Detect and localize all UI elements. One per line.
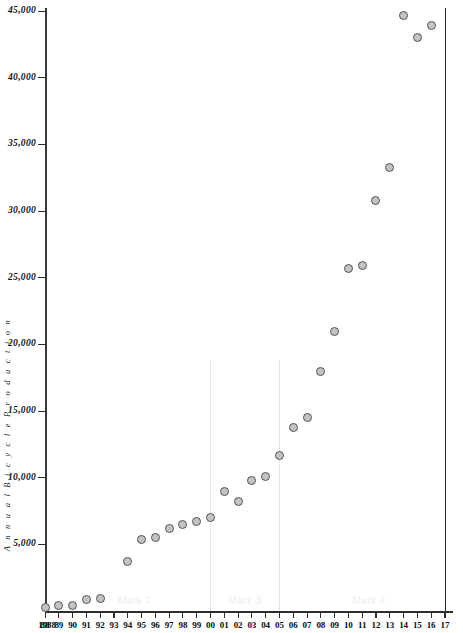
y-axis-tick bbox=[38, 344, 45, 345]
data-point bbox=[96, 594, 105, 603]
x-axis-tick bbox=[100, 612, 101, 618]
x-axis-tick-label: 16 bbox=[427, 620, 436, 630]
x-axis-tick-label: 13 bbox=[385, 620, 394, 630]
data-point bbox=[247, 476, 256, 485]
x-axis-tick-label: 97 bbox=[165, 620, 174, 630]
data-point bbox=[234, 497, 243, 506]
y-axis-tick bbox=[38, 77, 45, 78]
x-axis-tick bbox=[293, 612, 294, 618]
x-axis-tick-label: 88 bbox=[41, 620, 50, 630]
x-axis-tick bbox=[58, 612, 59, 618]
x-axis-tick-label: 90 bbox=[68, 620, 77, 630]
x-axis-tick-label: 00 bbox=[206, 620, 215, 630]
x-axis-tick bbox=[196, 612, 197, 618]
data-point bbox=[220, 487, 229, 496]
data-point bbox=[165, 524, 174, 533]
data-point bbox=[399, 11, 408, 20]
y-axis-tick bbox=[38, 211, 45, 212]
x-axis-tick-label: 91 bbox=[82, 620, 91, 630]
data-point bbox=[371, 196, 380, 205]
x-axis-tick bbox=[182, 612, 183, 618]
x-axis-tick bbox=[238, 612, 239, 618]
x-axis-tick bbox=[155, 612, 156, 618]
x-axis-tick bbox=[320, 612, 321, 618]
x-axis-tick bbox=[279, 612, 280, 618]
x-axis-tick bbox=[307, 612, 308, 618]
data-point bbox=[206, 513, 215, 522]
data-point bbox=[303, 413, 312, 422]
y-axis-tick bbox=[38, 411, 45, 412]
right-axis-line bbox=[445, 8, 446, 612]
x-axis-tick-label: 10 bbox=[344, 620, 353, 630]
data-point bbox=[316, 367, 325, 376]
x-axis-tick-label: 01 bbox=[220, 620, 229, 630]
y-axis-tick bbox=[38, 144, 45, 145]
x-axis-tick bbox=[224, 612, 225, 618]
data-point bbox=[344, 264, 353, 273]
data-point bbox=[151, 533, 160, 542]
bicycle-production-chart: Mark 2Mark 3Mark 4 45,00040,00035,00030,… bbox=[0, 0, 463, 633]
era-label: Mark 4 bbox=[353, 595, 386, 606]
x-axis-tick bbox=[348, 612, 349, 618]
x-axis-tick bbox=[375, 612, 376, 618]
y-axis-tick-label: 35,000 bbox=[0, 138, 36, 148]
x-axis-tick bbox=[210, 612, 211, 618]
x-axis-tick-label: 15 bbox=[413, 620, 422, 630]
x-axis-tick bbox=[403, 612, 404, 618]
x-axis-tick-label: 89 bbox=[54, 620, 63, 630]
x-axis-tick bbox=[169, 612, 170, 618]
x-axis-tick bbox=[362, 612, 363, 618]
y-axis-tick-label: 30,000 bbox=[0, 205, 36, 215]
data-point bbox=[261, 472, 270, 481]
x-axis-tick bbox=[127, 612, 128, 618]
x-axis-tick-label: 02 bbox=[234, 620, 243, 630]
era-divider-line bbox=[279, 360, 280, 611]
y-axis-title: A n n u a l B i c y c l e P r o d u c t … bbox=[2, 318, 16, 551]
y-axis-tick-label: 45,000 bbox=[0, 5, 36, 15]
data-point bbox=[385, 163, 394, 172]
era-label: Mark 2 bbox=[118, 595, 151, 606]
y-axis-tick bbox=[38, 277, 45, 278]
x-axis-tick-label: 94 bbox=[123, 620, 132, 630]
x-axis-tick bbox=[141, 612, 142, 618]
x-axis-tick bbox=[72, 612, 73, 618]
x-axis-tick bbox=[431, 612, 432, 618]
x-axis-tick-label: 07 bbox=[303, 620, 312, 630]
x-axis-tick-label: 14 bbox=[399, 620, 408, 630]
x-axis-tick-label: 08 bbox=[316, 620, 325, 630]
data-point bbox=[289, 423, 298, 432]
x-axis-tick bbox=[86, 612, 87, 618]
data-point bbox=[54, 601, 63, 610]
x-axis-tick-label: 95 bbox=[137, 620, 146, 630]
x-axis-tick bbox=[417, 612, 418, 618]
y-axis-tick bbox=[38, 544, 45, 545]
y-axis-tick-label: 25,000 bbox=[0, 272, 36, 282]
x-axis-tick bbox=[389, 612, 390, 618]
x-axis-tick-label: 12 bbox=[372, 620, 381, 630]
x-axis-tick-label: 04 bbox=[261, 620, 270, 630]
x-axis-tick-label: 06 bbox=[289, 620, 298, 630]
data-point bbox=[178, 520, 187, 529]
x-axis-tick bbox=[334, 612, 335, 618]
data-point bbox=[137, 535, 146, 544]
data-point bbox=[68, 601, 77, 610]
data-point bbox=[413, 33, 422, 42]
era-label: Mark 3 bbox=[228, 595, 261, 606]
x-axis-tick-label: 03 bbox=[247, 620, 256, 630]
x-axis-tick bbox=[251, 612, 252, 618]
data-point bbox=[427, 21, 436, 30]
data-point bbox=[358, 261, 367, 270]
x-axis-tick-label: 93 bbox=[110, 620, 119, 630]
data-point bbox=[82, 595, 91, 604]
x-axis-tick bbox=[265, 612, 266, 618]
era-divider-line bbox=[210, 360, 211, 611]
x-axis-tick-label: 17 bbox=[441, 620, 450, 630]
x-axis-tick-label: 09 bbox=[330, 620, 339, 630]
x-axis-tick-label: 98 bbox=[178, 620, 187, 630]
x-axis-tick bbox=[444, 612, 445, 618]
x-axis-line bbox=[45, 611, 453, 613]
data-point bbox=[192, 517, 201, 526]
data-point bbox=[41, 603, 50, 612]
x-axis-tick-label: 11 bbox=[358, 620, 366, 630]
data-point bbox=[123, 557, 132, 566]
